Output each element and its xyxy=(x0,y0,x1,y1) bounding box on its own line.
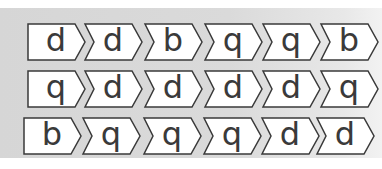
letter-tile: d xyxy=(262,70,324,108)
tile-letter: b xyxy=(152,21,194,59)
tile-letter: q xyxy=(212,21,254,59)
letter-tile: q xyxy=(27,70,89,108)
tile-letter: q xyxy=(90,115,132,153)
letter-tile: q xyxy=(143,117,205,155)
tile-letter: q xyxy=(35,68,77,106)
letter-tile: b xyxy=(23,117,85,155)
letter-tile: d xyxy=(144,70,206,108)
tile-letter: d xyxy=(152,68,194,106)
letter-tile: q xyxy=(262,23,324,61)
letter-tile: q xyxy=(204,23,266,61)
tile-letter: b xyxy=(31,115,73,153)
letter-tile: d xyxy=(84,23,146,61)
tile-letter: d xyxy=(92,68,134,106)
letter-tile: q xyxy=(320,70,382,108)
letter-tile: d xyxy=(316,117,378,155)
letter-tile: d xyxy=(84,70,146,108)
tile-letter: d xyxy=(269,115,311,153)
tile-letter: q xyxy=(270,21,312,59)
letter-tile: b xyxy=(320,23,382,61)
tile-letter: d xyxy=(270,68,312,106)
letter-tile: d xyxy=(261,117,323,155)
tile-letter: d xyxy=(324,115,366,153)
letter-tile: q xyxy=(203,117,265,155)
letter-tile: q xyxy=(82,117,144,155)
tile-letter: q xyxy=(328,68,370,106)
tile-letter: d xyxy=(35,21,77,59)
tile-letter: d xyxy=(212,68,254,106)
tile-letter: b xyxy=(328,21,370,59)
letter-tile: b xyxy=(144,23,206,61)
tile-letter: d xyxy=(92,21,134,59)
letter-tile: d xyxy=(204,70,266,108)
tile-letter: q xyxy=(151,115,193,153)
tile-letter: q xyxy=(211,115,253,153)
letter-tile: d xyxy=(27,23,89,61)
